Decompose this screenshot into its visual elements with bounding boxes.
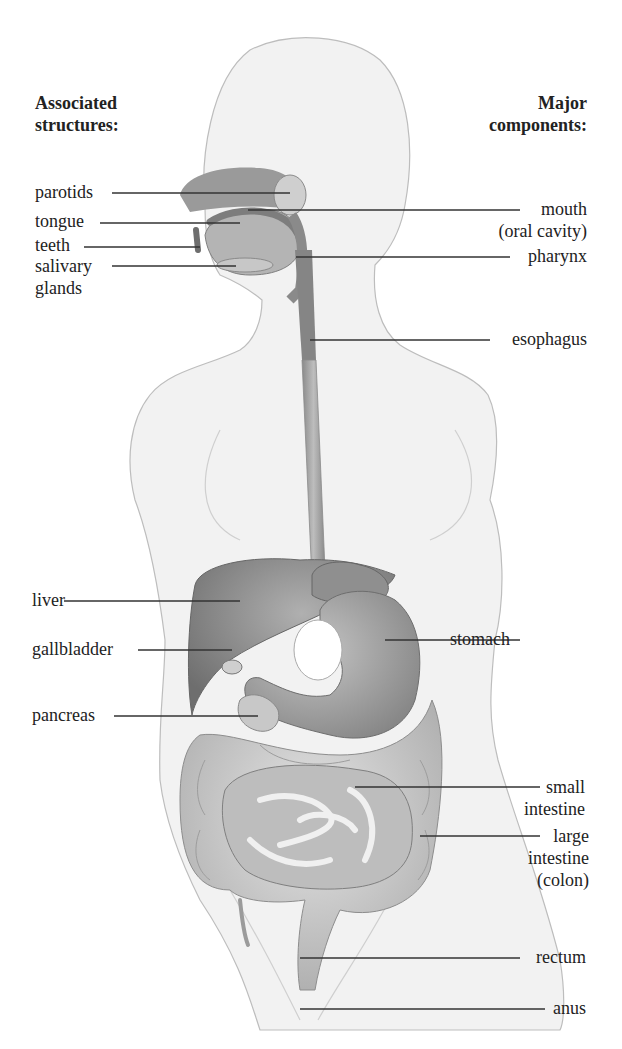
heading-line: Associated <box>35 92 119 114</box>
label-large-intestine: large intestine (colon) <box>528 825 589 891</box>
digestive-system-diagram: Associated structures: Major components:… <box>0 0 622 1049</box>
label-line: intestine <box>528 847 589 869</box>
heading-line: structures: <box>35 114 119 136</box>
label-small-intestine: small intestine <box>524 776 585 820</box>
heading-major-components: Major components: <box>489 92 587 136</box>
label-mouth: mouth (oral cavity) <box>499 198 587 242</box>
label-teeth: teeth <box>35 234 70 256</box>
label-line: salivary <box>35 255 92 277</box>
label-stomach: stomach <box>450 628 510 650</box>
label-line: small <box>524 776 585 798</box>
heading-associated-structures: Associated structures: <box>35 92 119 136</box>
label-rectum: rectum <box>536 946 586 968</box>
label-line: large <box>528 825 589 847</box>
label-line: (colon) <box>528 869 589 891</box>
label-pancreas: pancreas <box>32 704 95 726</box>
label-tongue: tongue <box>35 210 84 232</box>
label-esophagus: esophagus <box>512 328 587 350</box>
label-line: glands <box>35 277 92 299</box>
label-pharynx: pharynx <box>528 245 587 267</box>
label-parotids: parotids <box>35 181 93 203</box>
label-line: (oral cavity) <box>499 220 587 242</box>
label-liver: liver <box>32 589 65 611</box>
label-line: mouth <box>499 198 587 220</box>
label-anus: anus <box>553 997 586 1019</box>
heading-line: components: <box>489 114 587 136</box>
label-salivary-glands: salivary glands <box>35 255 92 299</box>
anatomy-illustration <box>0 0 622 1049</box>
label-line: intestine <box>524 798 585 820</box>
heading-line: Major <box>489 92 587 114</box>
small-intestine-shape <box>222 765 412 889</box>
label-gallbladder: gallbladder <box>32 638 113 660</box>
gallbladder-shape <box>222 660 242 674</box>
